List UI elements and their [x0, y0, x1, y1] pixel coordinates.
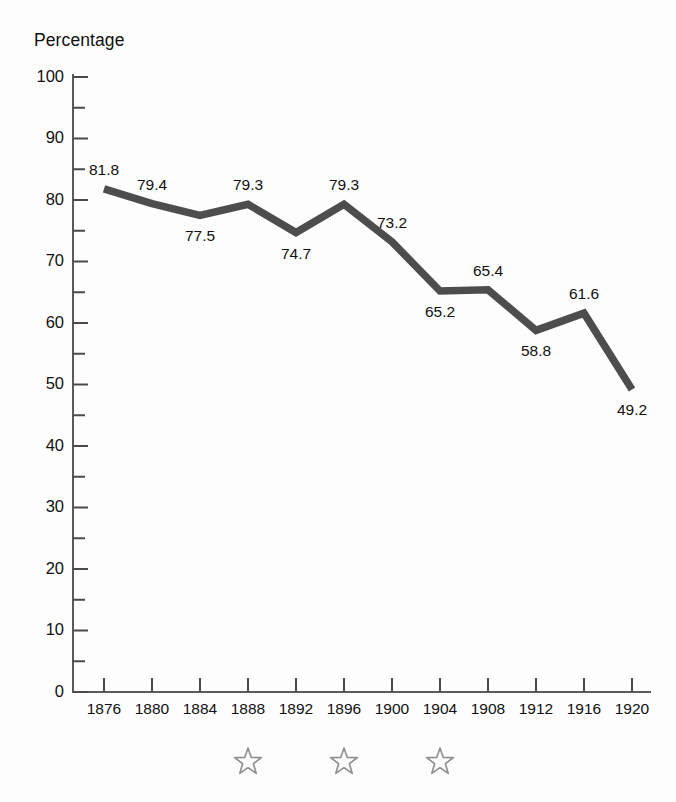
data-point-labels: 81.879.477.579.374.779.373.265.265.458.8… [89, 161, 647, 418]
chart-container: Percentage 0102030405060708090100 187618… [0, 0, 676, 802]
data-point-label: 65.4 [473, 262, 504, 279]
data-point-label: 79.3 [233, 176, 263, 193]
y-tick-label: 30 [46, 497, 64, 515]
x-tick-label: 1908 [471, 700, 505, 717]
y-tick-label: 10 [46, 620, 64, 638]
data-point-label: 81.8 [89, 161, 119, 178]
x-tick-label: 1900 [375, 700, 410, 717]
data-point-label: 49.2 [617, 401, 647, 418]
y-tick-label: 100 [36, 67, 64, 85]
x-tick-label: 1916 [567, 700, 601, 717]
x-axis-ticks [104, 678, 632, 692]
y-tick-label: 0 [55, 682, 64, 700]
data-point-label: 79.3 [329, 176, 359, 193]
data-point-label: 61.6 [569, 285, 599, 302]
x-tick-label: 1892 [279, 700, 313, 717]
y-tick-label: 70 [46, 251, 64, 269]
x-tick-label: 1920 [615, 700, 650, 717]
y-tick-label: 40 [46, 436, 64, 454]
data-point-label: 73.2 [377, 214, 407, 231]
star-icon [235, 748, 262, 773]
data-series-line [104, 189, 632, 389]
x-tick-label: 1904 [423, 700, 458, 717]
y-tick-label: 80 [46, 190, 64, 208]
star-icon [427, 748, 454, 773]
star-icon [331, 748, 358, 773]
data-point-label: 79.4 [137, 176, 168, 193]
y-tick-label: 50 [46, 374, 64, 392]
y-axis-ticks [73, 77, 88, 692]
star-markers-row [235, 748, 454, 773]
x-tick-label: 1876 [87, 700, 121, 717]
x-tick-label: 1880 [135, 700, 170, 717]
y-tick-label: 90 [46, 128, 64, 146]
data-point-label: 65.2 [425, 303, 455, 320]
y-tick-label: 60 [46, 313, 64, 331]
x-axis-tick-labels: 1876188018841888189218961900190419081912… [87, 700, 650, 717]
x-tick-label: 1884 [183, 700, 218, 717]
x-tick-label: 1888 [231, 700, 265, 717]
x-tick-label: 1896 [327, 700, 361, 717]
data-point-label: 58.8 [521, 342, 551, 359]
data-point-label: 77.5 [185, 227, 215, 244]
y-tick-label: 20 [46, 559, 64, 577]
line-chart-plot: 0102030405060708090100 18761880188418881… [0, 0, 676, 802]
x-tick-label: 1912 [519, 700, 553, 717]
data-point-label: 74.7 [281, 245, 311, 262]
y-axis-tick-labels: 0102030405060708090100 [36, 67, 64, 700]
